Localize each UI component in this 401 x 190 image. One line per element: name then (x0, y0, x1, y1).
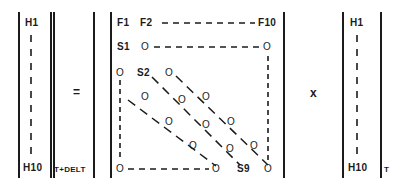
matrix-label-f10: F10 (258, 18, 276, 28)
equals-group-bracket-right (93, 12, 95, 178)
matrix-label-f1: F1 (117, 18, 129, 28)
matrix-zero-bottom-mid: O (212, 164, 220, 174)
matrix-zero-diag-b1: O (141, 92, 149, 102)
matrix-label-s1: S1 (117, 42, 130, 52)
left-vector-bracket-left (18, 12, 20, 178)
matrix-zero-bottom-right: O (264, 164, 272, 174)
center-matrix-bracket-left (110, 12, 112, 178)
matrix-zero-diag-b2: O (165, 117, 173, 127)
matrix-zero-diag-c1: O (178, 95, 186, 105)
matrix-zero-diag-a2: O (227, 117, 235, 127)
times-symbol: x (310, 87, 317, 99)
left-vector-top-label: H1 (25, 18, 38, 28)
right-vector-subscript: T (384, 166, 389, 174)
matrix-zero-diag-a3: O (250, 141, 258, 151)
matrix-label-s9: S9 (237, 164, 250, 174)
equals-symbol: = (73, 86, 80, 98)
center-matrix-bracket-right (283, 12, 285, 178)
matrix-zero-diag-c3: O (226, 144, 234, 154)
left-vector-bracket-right (50, 12, 52, 178)
matrix-zero-bottom-left: O (116, 164, 124, 174)
equals-group-bracket-left (53, 12, 55, 178)
right-vector-bracket-right (380, 12, 382, 178)
right-vector-bottom-label: H10 (348, 163, 367, 173)
matrix-zero-r2-left: O (141, 42, 149, 52)
matrix-zero-r3-diag: O (165, 68, 173, 78)
right-vector-bracket-left (342, 12, 344, 178)
left-vector-bottom-label: H10 (23, 163, 42, 173)
matrix-zero-diag-c2: O (202, 120, 210, 130)
left-vector-subscript: T+DELT (54, 166, 86, 174)
diagonal-band-c (128, 100, 216, 166)
matrix-equation-figure: H1 H10 T+DELT = F1 F2 F10 S1 O O O S2 O … (0, 0, 401, 190)
diagonal-band-a (176, 76, 268, 165)
matrix-zero-r3-left: O (116, 68, 124, 78)
matrix-label-f2: F2 (140, 18, 152, 28)
matrix-zero-r2-right: O (263, 42, 271, 52)
matrix-label-s2: S2 (137, 68, 150, 78)
matrix-zero-diag-a1: O (202, 92, 210, 102)
connector-lines (0, 0, 401, 190)
right-vector-top-label: H1 (350, 18, 363, 28)
matrix-zero-diag-b3: O (189, 141, 197, 151)
